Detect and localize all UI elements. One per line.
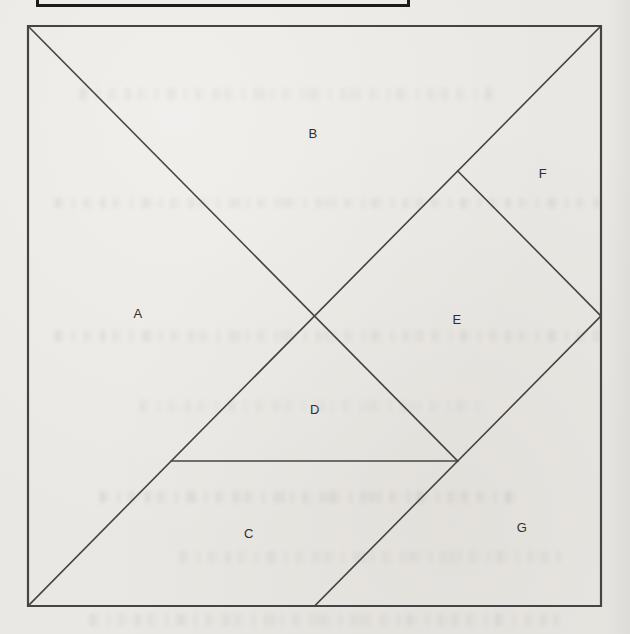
bleed-through-smudge xyxy=(180,551,560,563)
bleed-through-smudge xyxy=(55,330,600,342)
bleed-through-smudge xyxy=(80,88,500,100)
bleed-through-smudge xyxy=(90,614,560,626)
bleed-through-smudge xyxy=(140,400,480,412)
cut-antidiagonal-to-right-midpoint xyxy=(458,171,601,316)
bleed-through-smudge xyxy=(100,491,520,503)
bleed-through-smudge xyxy=(55,198,600,208)
